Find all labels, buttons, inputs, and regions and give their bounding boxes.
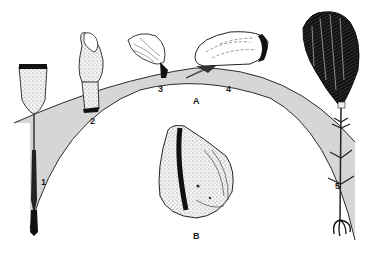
label-organism-5: 5 [335, 182, 340, 191]
label-panel-b: B [193, 232, 200, 241]
illustration [0, 0, 390, 253]
label-organism-1: 1 [41, 178, 46, 187]
organism-3-leaf [128, 34, 168, 78]
label-panel-a: A [193, 97, 200, 106]
specimen-b-shell [159, 126, 233, 219]
label-organism-3: 3 [158, 85, 163, 94]
label-organism-2: 2 [90, 117, 95, 126]
label-organism-4: 4 [226, 85, 231, 94]
